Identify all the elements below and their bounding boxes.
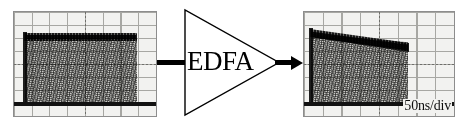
edfa-amplifier-symbol: EDFA — [157, 0, 303, 127]
edfa-pulse-figure: EDFA 50ns/div — [0, 0, 464, 127]
input-trace-noise-body — [25, 38, 137, 102]
output-arrow — [291, 56, 303, 70]
edfa-label: EDFA — [187, 48, 254, 75]
input-trace-baseline — [14, 102, 157, 106]
input-scope — [13, 11, 157, 117]
input-trace-top-envelope-core — [25, 35, 136, 39]
output-scope: 50ns/div — [303, 11, 455, 117]
timebase-label: 50ns/div — [403, 99, 452, 113]
